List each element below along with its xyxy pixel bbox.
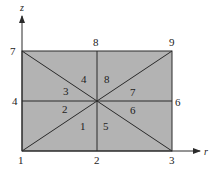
mesh-lines	[22, 51, 172, 151]
element-1-label: 1	[80, 120, 86, 132]
node-4-label: 4	[12, 95, 18, 107]
element-6-label: 6	[130, 104, 136, 116]
element-4-label: 4	[81, 73, 87, 85]
node-9-label: 9	[169, 36, 175, 48]
element-7-label: 7	[130, 86, 136, 98]
node-6-label: 6	[175, 96, 181, 108]
r-axis-label: r	[204, 146, 208, 157]
mesh-diagram: z r 1 2 3 4 6 7 8 9 1 2 3 4 5 6 7 8	[0, 0, 219, 172]
element-3-label: 3	[63, 85, 69, 97]
node-7-label: 7	[10, 45, 16, 57]
element-5-label: 5	[103, 120, 109, 132]
element-2-label: 2	[62, 103, 68, 115]
node-1-label: 1	[18, 154, 24, 166]
node-2-label: 2	[94, 154, 100, 166]
element-8-label: 8	[104, 73, 110, 85]
node-8-label: 8	[93, 36, 99, 48]
node-3-label: 3	[169, 154, 175, 166]
z-axis-label: z	[19, 2, 24, 13]
